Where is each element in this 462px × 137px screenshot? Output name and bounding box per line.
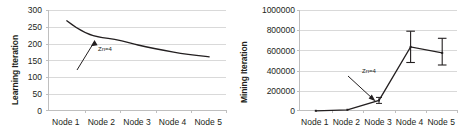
y-tick-label: 300 [14,5,42,15]
data-series-mining-iteration [300,10,458,111]
annotation-label-zn: Zn=4 [98,46,112,52]
x-axis-labels-mining-iteration: Node 1 Node 2 Node 3 Node 4 Node 5 [299,117,457,127]
y-tick-label: 250 [14,22,42,32]
plot-area-learning-iteration: Zn=4 [48,10,226,111]
x-tick-label: Node 5 [425,117,457,127]
x-tick-label: Node 4 [394,117,426,127]
annotation-arrow-head [91,40,98,46]
annotation-arrow-line [348,76,373,99]
x-tick-label: Node 3 [362,117,394,127]
y-tick-label: 800000 [245,25,295,35]
chart-panel-learning-iteration: Learning Iteration 0 50 100 150 200 250 … [0,0,231,137]
data-series-learning-iteration [49,10,227,111]
error-bar [438,38,447,65]
x-axis-labels-learning-iteration: Node 1 Node 2 Node 3 Node 4 Node 5 [48,117,226,127]
y-tick-label: 400000 [245,66,295,76]
y-tick-label: 100 [14,72,42,82]
y-tick-label: 150 [14,56,42,66]
x-tick-label: Node 5 [190,117,226,127]
x-tick-label: Node 1 [48,117,84,127]
y-tick-label: 600000 [245,46,295,56]
data-marker [315,110,317,112]
x-tick-label: Node 2 [84,117,120,127]
data-marker [346,109,348,111]
x-tick-label: Node 3 [119,117,155,127]
chart-panel-mining-iteration: Mining Iteration 0 200000 400000 600000 … [231,0,462,137]
y-tick-label: 1000000 [245,5,295,15]
x-tick-label: Node 2 [331,117,363,127]
figure-two-panel-charts: Learning Iteration 0 50 100 150 200 250 … [0,0,462,137]
x-tick-label: Node 4 [155,117,191,127]
y-tick-label: 200 [14,39,42,49]
y-tick-label: 50 [14,89,42,99]
y-tick-label: 0 [14,106,42,116]
y-tick-label: 0 [245,106,295,116]
annotation-label-zn: Zn=4 [362,68,376,74]
plot-area-mining-iteration: Zn=4 [299,10,457,111]
y-tick-label: 200000 [245,86,295,96]
x-tick-label: Node 1 [299,117,331,127]
